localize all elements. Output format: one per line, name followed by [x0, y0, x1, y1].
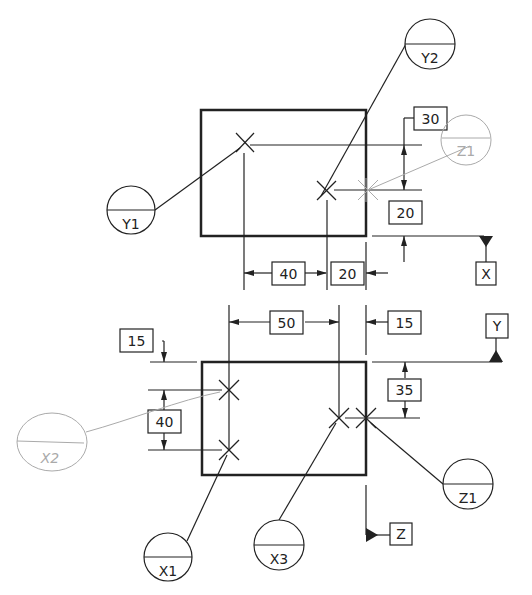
dim-20-right-text: 20: [397, 205, 415, 221]
dim-40-left-text: 40: [156, 414, 174, 430]
faint-balloon-z1-text: Z1: [457, 143, 476, 159]
datum-z-text: Z: [396, 526, 406, 542]
dim-35-text: 35: [396, 382, 414, 398]
balloon-x3-text: X3: [270, 551, 289, 567]
y2-cross-mark: [317, 181, 336, 200]
dim-40-top-text: 40: [280, 266, 298, 282]
datum-x-text: X: [481, 266, 491, 282]
bottom-part-outline: [202, 362, 366, 475]
top-part-outline: [201, 110, 366, 236]
dim-15-top-text: 15: [396, 315, 414, 331]
dim-50-text: 50: [278, 315, 296, 331]
dim-30-text: 30: [422, 111, 440, 127]
balloon-y1-text: Y1: [121, 216, 139, 232]
dim-15-left-text: 15: [128, 333, 146, 349]
faint-balloon-x2-text: X2: [40, 450, 60, 466]
balloon-y2-text: Y2: [420, 50, 438, 66]
balloon-x1-text: X1: [159, 563, 178, 579]
datum-y-text: Y: [492, 318, 502, 334]
dim-20-bottom-text: 20: [339, 266, 357, 282]
balloon-z1-text: Z1: [459, 490, 478, 506]
technical-drawing: 30 20 40 20 X 50 15 Y 15 40 35 Z Y2 Y1 X…: [0, 0, 532, 595]
